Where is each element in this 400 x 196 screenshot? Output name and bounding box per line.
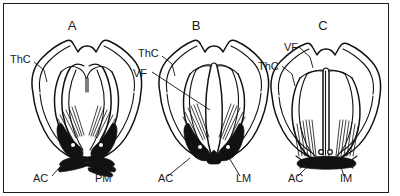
panel-letter-a: A — [68, 18, 77, 33]
label-ac-b: AC — [158, 172, 173, 184]
panel-letter-b: B — [192, 18, 201, 33]
arytenoid-marker-right-a — [98, 142, 103, 147]
label-vf-b: VF — [133, 67, 147, 79]
panel-c-drawing — [271, 43, 381, 176]
figure-root: A B C ThC AC PM ThC VF AC LM VF ThC AC I… — [0, 0, 400, 196]
label-lm-b: LM — [236, 172, 251, 184]
label-ac-a: AC — [33, 172, 48, 184]
leader-vf-b — [152, 72, 210, 110]
label-thc-c: ThC — [258, 60, 279, 72]
posterior-muscle-a-left — [58, 156, 90, 172]
panel-letter-c: C — [318, 18, 327, 33]
arytenoid-marker-left-a — [70, 142, 75, 147]
panel-a-drawing — [32, 40, 142, 177]
larynx-diagram: A B C ThC AC PM ThC VF AC LM VF ThC AC I… — [0, 0, 400, 196]
arytenoid-marker-right-b — [225, 144, 230, 149]
label-thc-a: ThC — [10, 53, 31, 65]
label-thc-b: ThC — [138, 47, 159, 59]
label-pm-a: PM — [95, 172, 112, 184]
panel-b-drawing — [152, 40, 269, 176]
muscle-striations-left-c — [294, 120, 316, 156]
arytenoid-marker-right-c — [328, 150, 333, 155]
arytenoid-marker-left-b — [197, 144, 202, 149]
label-ac-c: AC — [288, 172, 303, 184]
arytenoid-marker-left-c — [319, 150, 324, 155]
label-im-c: IM — [340, 172, 352, 184]
label-vf-c: VF — [284, 41, 298, 53]
muscle-striations-right-c — [336, 120, 358, 156]
